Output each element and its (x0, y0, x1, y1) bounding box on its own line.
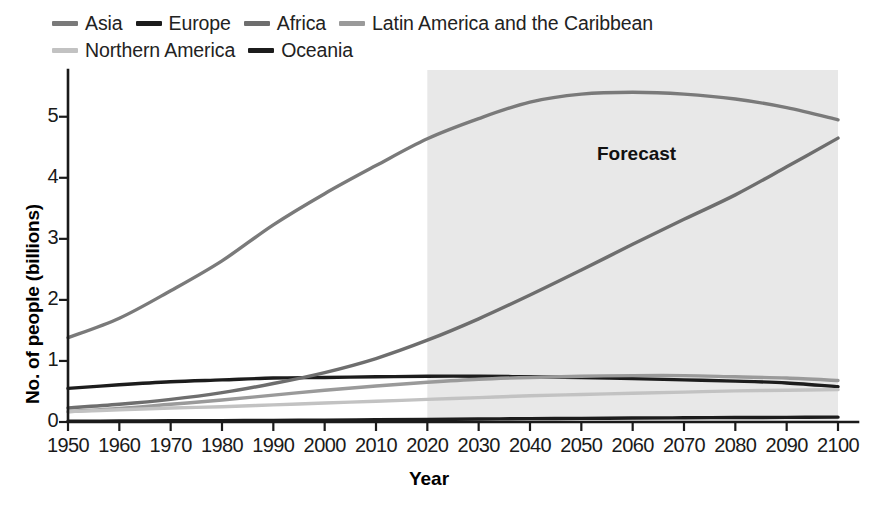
x-tick-label: 2090 (761, 434, 813, 457)
population-projection-chart: AsiaEuropeAfricaLatin America and the Ca… (0, 0, 870, 511)
x-tick-label: 1960 (93, 434, 145, 457)
plot-area: 0123451950196019701980199020002010202020… (0, 0, 870, 511)
x-tick-label: 1980 (196, 434, 248, 457)
x-tick-label: 2010 (350, 434, 402, 457)
x-tick-label: 2040 (504, 434, 556, 457)
x-tick-label: 2060 (607, 434, 659, 457)
y-tick-label: 5 (36, 104, 58, 127)
x-tick-label: 1970 (145, 434, 197, 457)
y-tick-label: 4 (36, 165, 58, 188)
x-tick-label: 2020 (401, 434, 453, 457)
x-axis-label: Year (0, 468, 858, 490)
x-tick-label: 2070 (658, 434, 710, 457)
x-tick-label: 2000 (299, 434, 351, 457)
y-tick-label: 0 (36, 409, 58, 432)
x-tick-label: 1990 (247, 434, 299, 457)
x-tick-label: 1950 (42, 434, 94, 457)
x-tick-label: 2030 (453, 434, 505, 457)
x-tick-label: 2080 (709, 434, 761, 457)
x-tick-label: 2100 (812, 434, 864, 457)
y-axis-label: No. of people (billions) (22, 204, 44, 404)
x-tick-label: 2050 (555, 434, 607, 457)
forecast-annotation-label: Forecast (597, 143, 676, 165)
